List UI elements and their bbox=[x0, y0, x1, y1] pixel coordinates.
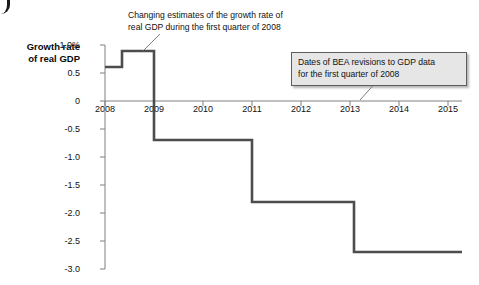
callout-changing-estimates: Changing estimates of the growth rate of… bbox=[128, 10, 328, 33]
y-tick-marks bbox=[100, 45, 105, 269]
chart-figure: Growth rate of real GDP 1.0% 0.5 0 -0.5 … bbox=[0, 0, 479, 285]
plot-area bbox=[0, 0, 479, 285]
callout-bea-revisions: Dates of BEA revisions to GDP data for t… bbox=[291, 52, 467, 86]
callout-estimates-leader-line bbox=[143, 34, 160, 51]
x-tick-marks bbox=[105, 101, 448, 106]
